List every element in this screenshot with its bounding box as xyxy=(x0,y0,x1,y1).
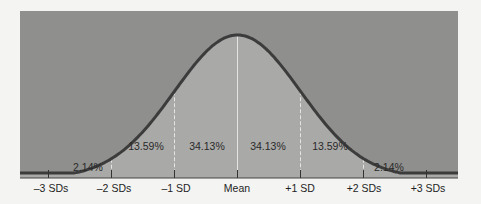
tick-label-pos2: +2 SDs xyxy=(347,182,382,194)
tick-label-pos3: +3 SDs xyxy=(411,182,446,194)
segment-label-neg1-mean: 34.13% xyxy=(189,140,225,152)
tick-label-mean: Mean xyxy=(224,182,250,194)
segment-label-mean-pos1: 34.13% xyxy=(250,140,286,152)
segment-label-neg2-neg1: 13.59% xyxy=(128,140,164,152)
tick-label-neg2: –2 SDs xyxy=(97,182,131,194)
normal-distribution-chart: 2.14% 13.59% 34.13% 34.13% 13.59% 2.14% … xyxy=(0,0,481,204)
tick-label-neg1: –1 SD xyxy=(161,182,191,194)
segment-label-pos1-pos2: 13.59% xyxy=(312,140,348,152)
segment-label-neg3-neg2: 2.14% xyxy=(73,161,103,173)
tick-label-neg3: –3 SDs xyxy=(34,182,68,194)
tick-label-pos1: +1 SD xyxy=(285,182,315,194)
segment-label-pos2-pos3: 2.14% xyxy=(374,161,404,173)
